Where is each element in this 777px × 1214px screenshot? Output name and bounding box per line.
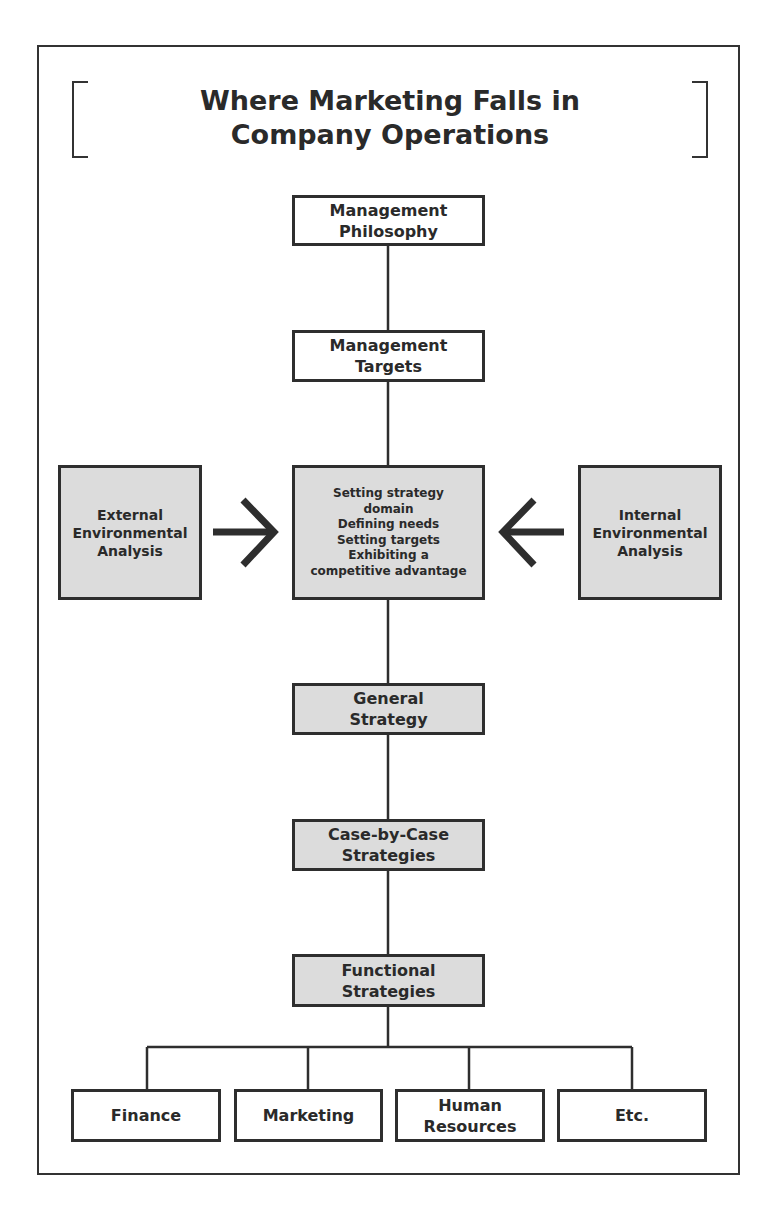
node-human-resources: Human Resources: [395, 1089, 545, 1142]
node-case-strategies: Case-by-Case Strategies: [292, 819, 485, 871]
node-label: Management Philosophy: [330, 200, 448, 242]
node-label: Setting strategy domain Defining needs S…: [310, 486, 466, 579]
connector-lines: [0, 0, 777, 1214]
node-finance: Finance: [71, 1089, 221, 1142]
node-label: Marketing: [263, 1105, 355, 1126]
node-strategy-core: Setting strategy domain Defining needs S…: [292, 465, 485, 600]
node-internal-analysis: Internal Environmental Analysis: [578, 465, 722, 600]
node-external-analysis: External Environmental Analysis: [58, 465, 202, 600]
node-general-strategy: General Strategy: [292, 683, 485, 735]
node-functional-strategies: Functional Strategies: [292, 954, 485, 1007]
node-label: External Environmental Analysis: [73, 506, 188, 560]
node-label: Human Resources: [424, 1095, 517, 1137]
node-label: Internal Environmental Analysis: [593, 506, 708, 560]
node-label: General Strategy: [349, 688, 427, 730]
node-label: Finance: [111, 1105, 181, 1126]
node-label: Case-by-Case Strategies: [328, 824, 449, 866]
node-management-philosophy: Management Philosophy: [292, 195, 485, 246]
node-etc: Etc.: [557, 1089, 707, 1142]
node-management-targets: Management Targets: [292, 330, 485, 382]
node-label: Management Targets: [330, 335, 448, 377]
node-marketing: Marketing: [234, 1089, 383, 1142]
node-label: Functional Strategies: [341, 960, 435, 1002]
node-label: Etc.: [615, 1105, 649, 1126]
